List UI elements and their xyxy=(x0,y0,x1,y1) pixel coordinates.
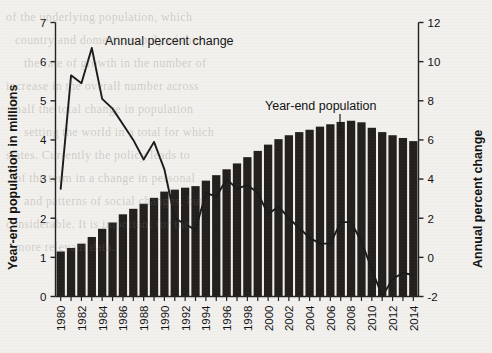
x-tick-label: 1988 xyxy=(138,306,150,332)
bar xyxy=(357,122,365,296)
bar xyxy=(57,251,65,296)
y2-tick-label: 6 xyxy=(428,134,434,146)
bar xyxy=(88,237,96,296)
y2-tick-label: 8 xyxy=(428,95,434,107)
bar xyxy=(388,135,396,296)
bar xyxy=(264,145,272,297)
bar xyxy=(305,130,313,297)
bar xyxy=(181,188,189,297)
bar xyxy=(191,186,199,296)
x-tick-label: 2002 xyxy=(283,306,295,332)
y2-tick-label: 2 xyxy=(428,213,434,225)
y-tick-label: 0 xyxy=(40,291,46,303)
bar xyxy=(77,244,85,297)
bar xyxy=(222,169,230,296)
y2-tick-label: 12 xyxy=(428,17,441,29)
x-tick-label: 1990 xyxy=(159,306,171,332)
bar xyxy=(316,127,324,297)
bar xyxy=(295,132,303,296)
bar xyxy=(150,198,158,297)
x-tick-label: 1984 xyxy=(97,305,109,331)
bar-series-year-end-population xyxy=(57,121,418,297)
x-tick-label: 1994 xyxy=(200,305,212,331)
right-axis: -2024681012 xyxy=(419,17,441,303)
y-tick-label: 5 xyxy=(40,95,46,107)
bar xyxy=(243,157,251,296)
x-axis: 1980198219841986198819901992199419961998… xyxy=(55,297,420,332)
x-tick-label: 1998 xyxy=(242,306,254,332)
y-tick-label: 2 xyxy=(40,213,46,225)
y-tick-label: 6 xyxy=(40,56,46,68)
y2-tick-label: 10 xyxy=(428,56,441,68)
bar xyxy=(337,122,345,297)
y-tick-label: 1 xyxy=(40,252,46,264)
y2-tick-label: 0 xyxy=(428,252,434,264)
x-tick-label: 1986 xyxy=(117,306,129,332)
x-tick-label: 1982 xyxy=(76,306,88,332)
bar xyxy=(108,223,116,297)
x-tick-label: 2008 xyxy=(345,306,357,332)
y-axis-title: Year-end population in millions xyxy=(6,85,20,270)
bar xyxy=(233,163,241,296)
y2-tick-label: 4 xyxy=(428,173,435,185)
x-tick-label: 1980 xyxy=(55,306,67,332)
bar xyxy=(326,124,334,296)
bar xyxy=(140,204,148,297)
y-tick-label: 3 xyxy=(40,173,46,185)
y2-tick-label: -2 xyxy=(428,291,438,303)
bar xyxy=(378,132,386,296)
chart-root: of the underlying population, whichcount… xyxy=(0,0,492,353)
y-tick-label: 7 xyxy=(40,17,46,29)
x-tick-label: 2004 xyxy=(304,305,316,331)
annotation-annual-percent-change: Annual percent change xyxy=(105,34,234,48)
y2-axis-title: Annual percent change xyxy=(471,130,485,268)
bar xyxy=(409,141,417,296)
x-tick-label: 2010 xyxy=(366,306,378,332)
bar xyxy=(119,214,127,296)
combo-chart: 01234567 -2024681012 1980198219841986198… xyxy=(0,0,492,353)
x-tick-label: 2012 xyxy=(387,306,399,332)
x-tick-label: 1992 xyxy=(180,306,192,332)
bar xyxy=(254,151,262,297)
x-tick-label: 1996 xyxy=(221,306,233,332)
annotation-label-year-end-population: Year-end population xyxy=(265,99,376,113)
bar xyxy=(129,209,137,297)
bar xyxy=(160,192,168,297)
bar xyxy=(98,229,106,297)
left-axis: 01234567 xyxy=(40,17,55,303)
annotation-label-annual-percent-change: Annual percent change xyxy=(105,34,234,48)
bar xyxy=(274,139,282,296)
bar xyxy=(347,121,355,297)
x-tick-label: 2006 xyxy=(325,306,337,332)
x-tick-label: 2014 xyxy=(408,305,420,331)
bar xyxy=(202,181,210,297)
y-tick-label: 4 xyxy=(40,134,47,146)
bar xyxy=(67,248,75,297)
x-tick-label: 2000 xyxy=(263,306,275,332)
